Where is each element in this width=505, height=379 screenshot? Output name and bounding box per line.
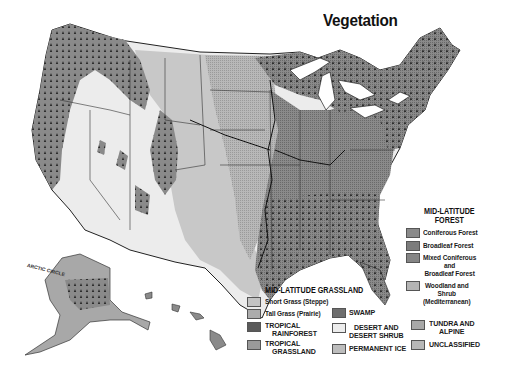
permanent-ice-swatch — [332, 344, 346, 354]
legend-forest-heading-line2: FOREST — [415, 216, 484, 225]
legend-tropical-rainforest-label: TROPICAL RAINFOREST — [265, 322, 317, 338]
legend-coniferous-label: Coniferous Forest — [423, 229, 478, 237]
legend-woodland-label: Woodland and Shrub (Mediterranean) — [423, 282, 470, 306]
legend-swamp-label: SWAMP — [349, 309, 375, 317]
legend-broadleaf-label: Broadleaf Forest — [423, 242, 473, 250]
legend-mixed-line3: Broadleaf Forest — [423, 270, 476, 278]
woodland-shrub-swatch — [406, 281, 420, 291]
legend-forest-heading-line1: MID-LATITUDE — [415, 207, 484, 216]
tall-grass-swatch — [247, 309, 261, 319]
legend-grassland-heading: MID-LATITUDE GRASSLAND — [265, 286, 363, 295]
legend-permanent-ice-label: PERMANENT ICE — [349, 345, 406, 353]
mixed-forest-swatch — [406, 253, 420, 263]
coniferous-forest-swatch — [406, 228, 420, 238]
legend-short-grass-label: Short Grass (Steppe) — [265, 298, 328, 306]
legend-tall-grass-label: Tall Grass (Prairie) — [265, 310, 321, 318]
legend-woodland-line3: (Mediterranean) — [423, 298, 470, 306]
tundra-swatch — [411, 320, 425, 330]
legend-desert-line2: DESERT SHRUB — [349, 332, 403, 340]
legend-tropical-grassland-line2: GRASSLAND — [265, 348, 316, 356]
swamp-swatch — [332, 308, 346, 318]
legend-mixed-label: Mixed Coniferous and Broadleaf Forest — [423, 254, 476, 278]
legend-unclassified-label: UNCLASSIFIED — [429, 341, 480, 349]
broadleaf-forest-swatch — [406, 241, 420, 251]
legend-tundra-label: TUNDRA AND ALPINE — [429, 320, 475, 336]
legend-tropical-grassland-label: TROPICAL GRASSLAND — [265, 340, 316, 356]
legend-desert-label: DESERT AND DESERT SHRUB — [349, 324, 403, 340]
desert-swatch — [332, 323, 346, 333]
tropical-grassland-swatch — [247, 340, 261, 350]
legend-tropical-rainforest-line2: RAINFOREST — [265, 330, 317, 338]
tropical-rainforest-swatch — [247, 322, 261, 332]
legend-forest-heading: MID-LATITUDE FOREST — [415, 207, 484, 225]
short-grass-swatch — [247, 297, 261, 307]
legend-tundra-line2: ALPINE — [429, 328, 475, 336]
hawaii-inset — [145, 292, 226, 350]
unclassified-swatch — [411, 340, 425, 350]
